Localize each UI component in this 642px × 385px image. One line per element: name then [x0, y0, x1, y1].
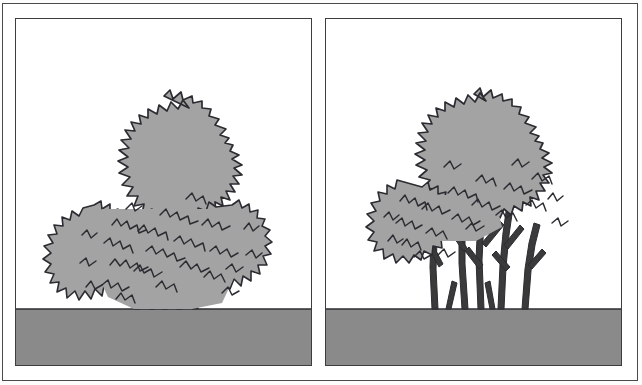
panel-left — [15, 18, 312, 366]
panel-right-drawing — [326, 19, 621, 365]
ground-fill-right — [326, 309, 621, 365]
panel-left-drawing — [16, 19, 311, 365]
figure-root — [0, 0, 642, 385]
panel-right — [325, 18, 622, 366]
ground-fill-left — [16, 309, 311, 365]
